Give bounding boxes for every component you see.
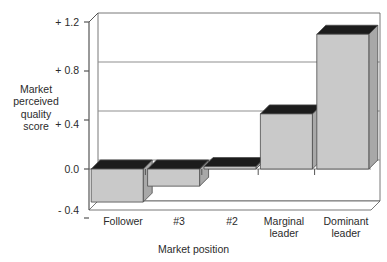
bar-2-top: [204, 158, 265, 167]
axis-depth-edge-top: [89, 13, 98, 22]
bar-dominant-leader-face: [317, 34, 369, 169]
bar-3-top: [148, 160, 209, 169]
bar-follower-face: [91, 169, 143, 202]
plot-area: [0, 0, 387, 262]
bar-3-face: [148, 169, 200, 186]
bar-2-face: [204, 167, 256, 169]
bar-follower-top: [91, 160, 152, 169]
bar-marginal-leader-top: [260, 105, 321, 114]
chart-container: Market perceived quality score + 1.2 + 0…: [0, 0, 387, 262]
bar-marginal-leader-face: [260, 114, 312, 169]
bar-dominant-leader-side: [369, 25, 378, 169]
bar-dominant-leader-top: [317, 25, 378, 34]
